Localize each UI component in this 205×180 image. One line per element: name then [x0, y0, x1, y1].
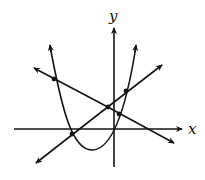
- intersection-point-p2: [106, 105, 111, 110]
- intersection-point-p5: [70, 132, 75, 137]
- parabola-curve: [50, 46, 136, 150]
- y-axis-label: y: [108, 7, 118, 25]
- intersection-point-p3: [124, 89, 129, 94]
- parabola-right-arrow-icon: [135, 45, 136, 52]
- line-decreasing-left-arrow: [34, 68, 104, 105]
- parabola-left-arrow-icon: [50, 45, 51, 52]
- graph-figure: x y: [0, 0, 205, 180]
- intersection-point-p4: [117, 112, 122, 117]
- intersection-point-p1: [52, 77, 57, 82]
- graph-canvas: x y: [0, 0, 205, 180]
- x-axis-label: x: [188, 120, 197, 138]
